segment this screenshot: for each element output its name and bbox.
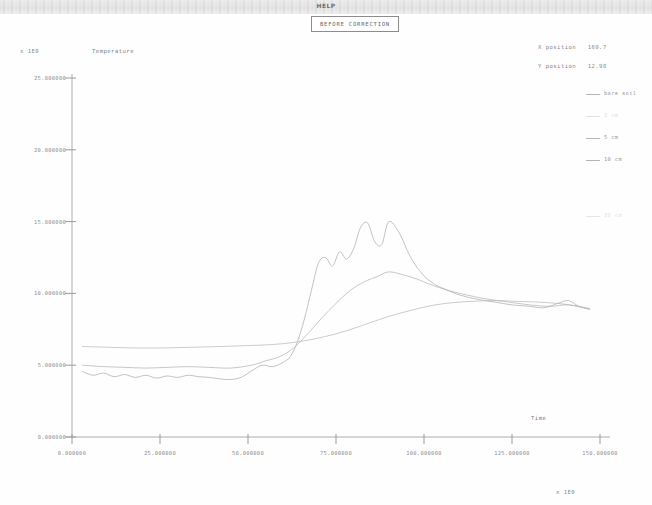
legend-color-swatch [586, 116, 600, 117]
window-titlebar: HELP [0, 0, 652, 14]
legend-item[interactable]: 10 cm [586, 154, 652, 176]
x-tick-label: 50.000000 [232, 450, 264, 456]
x-position-label: X position [538, 44, 576, 50]
y-tick-label: 20.000000 [34, 147, 66, 153]
legend-item[interactable]: bare soil [586, 88, 652, 110]
legend-item[interactable]: 5 cm [586, 132, 652, 154]
chart-series-line [83, 301, 590, 348]
chart-legend: bare soil2 cm5 cm10 cm [586, 88, 652, 176]
chart-plot-area [0, 0, 652, 505]
y-tick-label: 0.000000 [38, 434, 66, 440]
y-axis-tick-labels: 0.0000005.00000010.00000015.00000020.000… [8, 0, 66, 505]
y-position-readout: Y position 12.98 [538, 63, 607, 69]
x-position-readout: X position 169.7 [538, 44, 607, 50]
x-axis-exponent-label: x 1E0 [556, 489, 575, 495]
legend-color-swatch [586, 216, 600, 217]
x-tick-label: 100.000000 [406, 450, 441, 456]
x-axis-title: Time [531, 415, 546, 421]
y-position-label: Y position [538, 63, 576, 69]
legend-item-label: 2 cm [604, 112, 618, 118]
chart-series-line [83, 221, 590, 379]
x-tick-label: 150.000000 [582, 450, 617, 456]
x-position-value: 169.7 [588, 44, 607, 50]
x-tick-label: 25.000000 [144, 450, 176, 456]
x-tick-label: 125.000000 [494, 450, 529, 456]
legend-item-label: 5 cm [604, 134, 618, 140]
chart-title: BEFORE CORRECTION [312, 21, 398, 27]
application-window: HELP BEFORE CORRECTION x 1E0 Temperature… [0, 0, 652, 505]
y-position-value: 12.98 [588, 63, 607, 69]
chart-title-box: BEFORE CORRECTION [311, 16, 399, 32]
legend-color-swatch [586, 160, 600, 161]
x-tick-label: 75.000000 [320, 450, 352, 456]
chart-series-line [83, 272, 590, 368]
window-title: HELP [0, 2, 652, 9]
legend-color-swatch [586, 94, 600, 95]
y-axis-title: Temperature [92, 48, 134, 54]
y-tick-label: 5.000000 [38, 362, 66, 368]
legend-item-label: 10 cm [604, 156, 622, 162]
legend-item[interactable]: 2 cm [586, 110, 652, 132]
y-tick-label: 10.000000 [34, 290, 66, 296]
chart-legend-extra: 20 cm [586, 210, 652, 222]
legend-item-label: 20 cm [604, 212, 622, 218]
y-tick-label: 25.000000 [34, 75, 66, 81]
y-tick-label: 15.000000 [34, 219, 66, 225]
x-tick-label: 0.000000 [58, 450, 86, 456]
legend-color-swatch [586, 138, 600, 139]
legend-item[interactable]: 20 cm [586, 210, 652, 232]
legend-item-label: bare soil [604, 90, 636, 96]
